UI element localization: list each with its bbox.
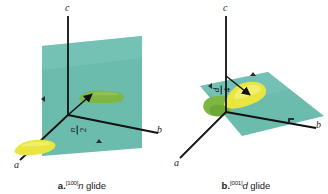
panel-n-glide: c b a n 2 (0, 0, 164, 194)
caption-n-glide: a.[100]n glide (0, 180, 164, 192)
caption-d-glide: b.[001]d glide (164, 180, 328, 192)
b-axis-label: b (316, 119, 321, 130)
caption-glide-symbol: n (78, 181, 83, 192)
caption-direction: [001] (230, 180, 242, 186)
translation-denominator: 4 (222, 87, 232, 92)
c-axis-label: c (65, 2, 70, 13)
caption-letter: a. (58, 181, 66, 192)
glide-plane-figure: c b a n 2 (0, 0, 328, 194)
caption-glide-symbol: d (242, 181, 247, 192)
panel-d-glide: c b a d 4 (164, 0, 328, 194)
d-glide-diagram: c b a d 4 (164, 0, 328, 172)
caption-letter: b. (222, 181, 230, 192)
translation-numerator: d (211, 87, 221, 92)
n-glide-diagram: c b a n 2 (0, 0, 164, 172)
a-axis-label: a (174, 157, 179, 168)
c-axis-label: c (223, 2, 228, 13)
a-axis-label: a (14, 159, 19, 170)
plane-edge-tick-top (250, 72, 256, 76)
caption-word: glide (86, 181, 106, 192)
b-axis-label: b (157, 124, 162, 135)
translation-numerator: n (67, 127, 77, 132)
caption-direction: [100] (66, 180, 78, 186)
a-axis-line (180, 112, 226, 158)
caption-word: glide (250, 181, 270, 192)
translation-denominator: 2 (78, 128, 88, 133)
